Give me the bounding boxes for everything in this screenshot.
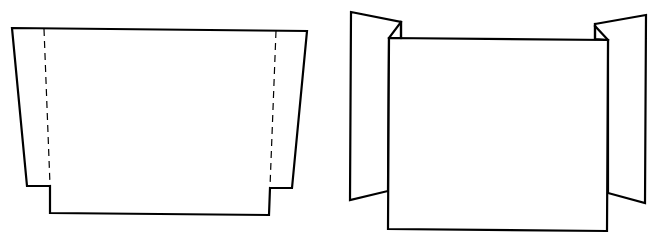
diagram-svg bbox=[0, 0, 659, 245]
folded-standing bbox=[350, 12, 646, 231]
flat-template bbox=[12, 28, 307, 215]
flat-template-outline bbox=[12, 28, 307, 215]
front-panel bbox=[388, 38, 608, 231]
diagram-canvas bbox=[0, 0, 659, 245]
